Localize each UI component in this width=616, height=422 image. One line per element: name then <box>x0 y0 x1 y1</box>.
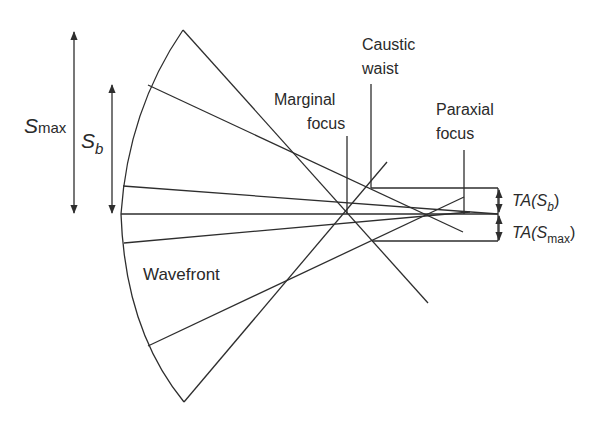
spherical-aberration-diagram: Smax Sb Caustic waist Marginal focus Par… <box>0 0 616 422</box>
marginal-focus-label-2: focus <box>307 115 345 132</box>
sb-label: Sb <box>81 129 103 157</box>
rays <box>121 30 498 402</box>
marginal-focus-label-1: Marginal <box>274 91 335 108</box>
caustic-waist-label-1: Caustic <box>362 36 415 53</box>
ta-sb-label: TA(Sb) <box>512 192 559 214</box>
ta-smax-label: TA(Smax) <box>512 224 575 246</box>
wavefront-arc <box>121 30 184 402</box>
paraxial-focus-label-1: Paraxial <box>436 101 494 118</box>
caustic-waist-label-2: waist <box>361 60 399 77</box>
wavefront-label: Wavefront <box>143 265 220 284</box>
smax-label: Smax <box>24 114 67 137</box>
paraxial-focus-label-2: focus <box>436 125 474 142</box>
